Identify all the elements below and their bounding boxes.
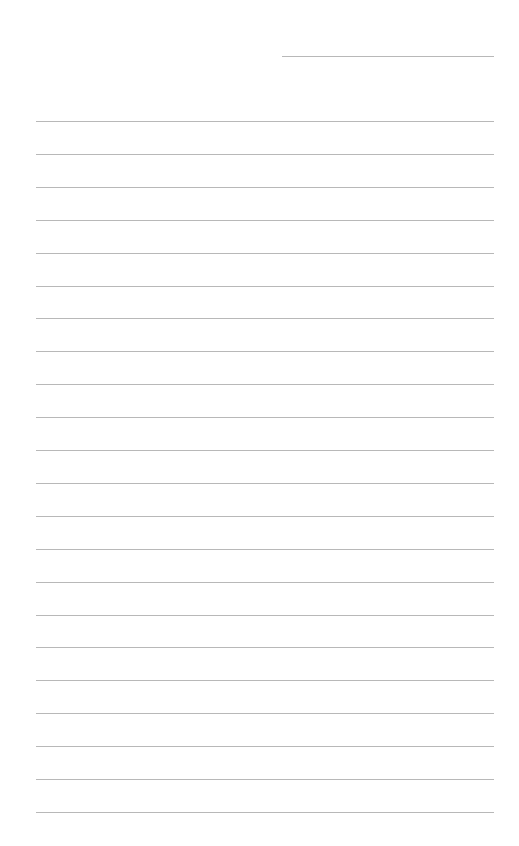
lined-paper-page: [0, 0, 519, 846]
ruled-line: [36, 746, 494, 747]
ruled-line: [36, 582, 494, 583]
ruled-line: [36, 154, 494, 155]
ruled-line: [36, 680, 494, 681]
ruled-line: [36, 812, 494, 813]
ruled-line: [36, 417, 494, 418]
ruled-line: [36, 615, 494, 616]
ruled-line: [36, 779, 494, 780]
ruled-line: [36, 549, 494, 550]
ruled-line: [36, 187, 494, 188]
ruled-line: [36, 220, 494, 221]
ruled-line: [36, 384, 494, 385]
ruled-line: [36, 483, 494, 484]
header-name-line: [282, 56, 494, 57]
ruled-line: [36, 286, 494, 287]
ruled-line: [36, 253, 494, 254]
ruled-line: [36, 713, 494, 714]
ruled-line: [36, 516, 494, 517]
ruled-line: [36, 351, 494, 352]
ruled-line: [36, 647, 494, 648]
ruled-line: [36, 121, 494, 122]
ruled-line: [36, 450, 494, 451]
ruled-line: [36, 318, 494, 319]
